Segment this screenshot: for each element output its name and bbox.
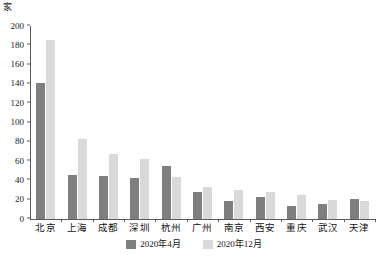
x-axis-category-label: 北京: [30, 222, 61, 234]
bar-series-1: [224, 201, 233, 219]
x-axis-category-label: 天津: [344, 222, 375, 234]
y-axis-tick-label: 0: [20, 215, 31, 224]
bar-series-2: [360, 201, 369, 219]
y-axis-tick-label: 160: [11, 60, 31, 69]
bar-group: [218, 190, 249, 219]
bar-series-1: [287, 206, 296, 219]
x-axis-category-label: 重庆: [281, 222, 312, 234]
bar-group: [187, 187, 218, 219]
bar-series-1: [36, 83, 45, 219]
bar-series-2: [203, 187, 212, 219]
x-axis-category-label: 武汉: [312, 222, 343, 234]
bar-group: [250, 192, 281, 219]
x-axis-category-label: 深圳: [124, 222, 155, 234]
bar-series-2: [297, 195, 306, 219]
bar-series-1: [318, 204, 327, 219]
bar-series-2: [109, 154, 118, 219]
legend-entry[interactable]: 2020年12月: [203, 239, 262, 249]
chart-screenshot: 家 020406080100120140160180200 北京上海成都深圳杭州…: [0, 0, 388, 260]
plot-area: 020406080100120140160180200: [30, 26, 375, 219]
bar-group: [30, 40, 61, 219]
bar-group: [281, 195, 312, 219]
bar-series-1: [256, 197, 265, 219]
bar-group: [124, 159, 155, 219]
y-axis-tick-label: 120: [11, 99, 31, 108]
y-axis-tick-label: 140: [11, 79, 31, 88]
y-axis-tick-label: 80: [15, 137, 30, 146]
y-axis-unit-label: 家: [3, 2, 12, 13]
x-axis-category-label: 成都: [93, 222, 124, 234]
bar-group: [312, 200, 343, 219]
x-axis-category-label: 南京: [218, 222, 249, 234]
bar-series-1: [162, 166, 171, 219]
bar-series-2: [266, 192, 275, 219]
bar-series-1: [350, 199, 359, 219]
bar-series-1: [130, 178, 139, 219]
bar-group: [155, 166, 186, 219]
y-axis-tick-label: 20: [15, 195, 30, 204]
bar-series-1: [99, 176, 108, 219]
x-axis-category-label: 西安: [250, 222, 281, 234]
y-axis-tick-mark: [27, 25, 30, 26]
bar-series-2: [46, 40, 55, 219]
x-axis-tick-mark: [375, 219, 376, 222]
x-axis-line: [30, 219, 376, 220]
legend-swatch-icon: [203, 240, 213, 249]
x-axis-category-label: 上海: [61, 222, 92, 234]
y-axis-tick-label: 40: [15, 176, 30, 185]
y-axis-tick-label: 180: [11, 41, 31, 50]
bar-series-2: [140, 159, 149, 219]
bar-series-2: [328, 200, 337, 219]
bar-group: [93, 154, 124, 219]
legend-label: 2020年4月: [140, 239, 181, 249]
x-axis-category-label: 杭州: [155, 222, 186, 234]
bar-series-2: [172, 177, 181, 219]
bar-series-1: [68, 175, 77, 219]
bar-group: [344, 199, 375, 219]
y-axis-tick-label: 100: [11, 118, 31, 127]
bar-series-1: [193, 192, 202, 219]
bar-series-2: [234, 190, 243, 219]
bar-series-2: [78, 139, 87, 219]
legend-entry[interactable]: 2020年4月: [126, 239, 181, 249]
legend-label: 2020年12月: [217, 239, 262, 249]
x-axis-category-label: 广州: [187, 222, 218, 234]
y-axis-tick-label: 60: [15, 157, 30, 166]
chart-legend: 2020年4月2020年12月: [0, 239, 388, 249]
bar-group: [61, 139, 92, 219]
y-axis-tick-label: 200: [11, 22, 31, 31]
legend-swatch-icon: [126, 240, 136, 249]
